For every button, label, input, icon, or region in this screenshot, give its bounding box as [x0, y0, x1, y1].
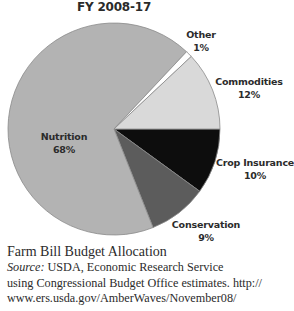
label-nutrition-name: Nutrition	[34, 130, 94, 143]
figure-caption: Farm Bill Budget Allocation Source: USDA…	[7, 243, 292, 307]
label-commodities-pct: 12%	[206, 88, 292, 101]
label-conservation-name: Conservation	[168, 218, 244, 231]
label-crop-insurance-name: Crop Insurance	[215, 156, 294, 169]
source-label: Source:	[7, 260, 44, 274]
label-nutrition: Nutrition 68%	[34, 130, 94, 156]
label-other-name: Other	[183, 28, 219, 41]
pie-chart	[0, 0, 294, 245]
label-other-pct: 1%	[183, 41, 219, 54]
label-other: Other 1%	[183, 28, 219, 54]
label-crop-insurance-pct: 10%	[215, 169, 294, 182]
label-crop-insurance: Crop Insurance 10%	[215, 156, 294, 182]
caption-title: Farm Bill Budget Allocation	[7, 243, 292, 260]
label-nutrition-pct: 68%	[34, 143, 94, 156]
source-line-3: www.ers.usda.gov/AmberWaves/November08/	[7, 291, 292, 307]
source-line-2: using Congressional Budget Office estima…	[7, 276, 292, 292]
label-commodities: Commodities 12%	[206, 75, 292, 101]
label-conservation: Conservation 9%	[168, 218, 244, 244]
caption-source: Source: USDA, Economic Research Service	[7, 260, 292, 276]
label-commodities-name: Commodities	[206, 75, 292, 88]
source-line-1: USDA, Economic Research Service	[44, 260, 223, 274]
